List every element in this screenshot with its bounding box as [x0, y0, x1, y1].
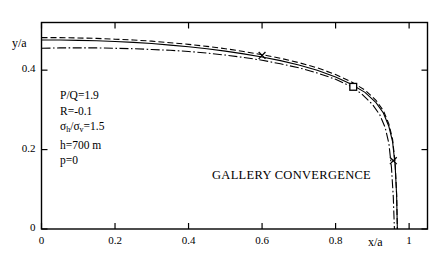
y-tick-label: 0.2 [8, 142, 36, 154]
data-markers [259, 52, 397, 164]
param-p: p=0 [60, 153, 104, 169]
x-tick-label: 0.6 [252, 234, 272, 246]
x-tick-label: 0 [32, 234, 52, 246]
param-sigma-ratio: σh/σv=1.5 [60, 119, 104, 137]
y-tick-label: 0 [8, 221, 36, 233]
parameter-annotation-block: P/Q=1.9 R=-0.1 σh/σv=1.5 h=700 m p=0 [60, 88, 104, 169]
gallery-convergence-annotation: GALLERY CONVERGENCE [212, 168, 371, 183]
marker-square-1 [350, 83, 357, 90]
x-axis-title: x/a [368, 235, 383, 250]
y-tick-label: 0.4 [8, 62, 36, 74]
param-pq: P/Q=1.9 [60, 88, 104, 104]
x-tick-label: 1 [399, 234, 419, 246]
gallery-convergence-chart: y/a x/a P/Q=1.9 R=-0.1 σh/σv=1.5 h=700 m… [0, 0, 445, 261]
x-tick-label: 0.8 [326, 234, 346, 246]
param-r: R=-0.1 [60, 104, 104, 120]
x-tick-label: 0.4 [179, 234, 199, 246]
param-h: h=700 m [60, 138, 104, 154]
y-axis-title: y/a [12, 36, 27, 51]
x-tick-label: 0.2 [105, 234, 125, 246]
marker-cross-1 [259, 52, 266, 59]
